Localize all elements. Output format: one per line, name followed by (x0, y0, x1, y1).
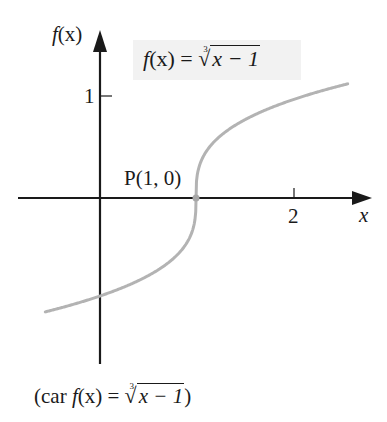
y-axis-arrow-icon (93, 30, 107, 52)
formula-radicand: x − 1 (210, 45, 260, 71)
y-axis-label-arg: (x) (58, 22, 83, 46)
caption-open: (car (34, 384, 72, 408)
formula-equals: = (175, 46, 198, 71)
y-axis-label: f(x) (52, 22, 82, 47)
tick-label-x-2: 2 (288, 204, 299, 229)
x-axis-label: x (359, 203, 368, 228)
point-p-marker (193, 195, 200, 202)
caption-equals: = (102, 384, 124, 408)
caption-arg: (x) (78, 384, 103, 408)
tick-label-y-1: 1 (84, 84, 95, 109)
root-index: 3 (203, 44, 208, 54)
caption: (car f(x) = 3√x − 1) (34, 383, 191, 409)
formula-label: f(x) = 3√x − 1 (143, 46, 260, 72)
cube-root: 3√ (198, 46, 210, 72)
caption-root-index: 3 (130, 381, 135, 391)
point-p-label: P(1, 0) (124, 166, 181, 191)
caption-radicand: x − 1 (137, 383, 185, 408)
caption-close: ) (184, 384, 191, 408)
formula-arg: (x) (149, 46, 175, 71)
caption-cube-root: 3√ (125, 383, 137, 409)
